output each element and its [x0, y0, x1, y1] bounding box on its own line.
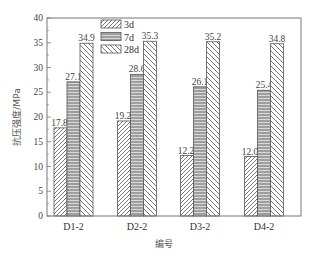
- x-tick-label: D3-2: [190, 221, 211, 232]
- x-tick-label: D1-2: [63, 221, 84, 232]
- y-tick-label: 15: [34, 137, 44, 147]
- legend-label: 28d: [124, 44, 139, 55]
- y-tick-label: 0: [38, 211, 43, 221]
- legend-label: 7d: [124, 32, 134, 43]
- value-label: 25.4: [256, 80, 273, 90]
- bar-group-D2-2: 19.228.635.3: [115, 31, 159, 216]
- value-label: 34.9: [78, 33, 95, 43]
- y-tick-label: 30: [34, 63, 44, 73]
- bar-7d: [258, 90, 271, 216]
- value-label: 17.8: [51, 118, 68, 128]
- bar-28d: [80, 43, 93, 216]
- bar-3d: [181, 156, 194, 216]
- legend-swatch-28d: [101, 45, 121, 53]
- x-tick-label: D2-2: [127, 221, 148, 232]
- x-tick-label: D4-2: [254, 221, 275, 232]
- bar-group-D3-2: 12.226.135.2: [178, 32, 222, 216]
- y-tick-label: 5: [38, 186, 43, 196]
- bar-chart: 17.827.134.919.228.635.312.226.135.212.0…: [0, 0, 317, 261]
- legend-label: 3d: [124, 19, 134, 30]
- bar-28d: [271, 44, 284, 216]
- value-label: 35.3: [142, 31, 159, 41]
- plot-area: 17.827.134.919.228.635.312.226.135.212.0…: [51, 31, 285, 216]
- value-label: 26.1: [192, 77, 209, 87]
- y-tick-label: 35: [34, 38, 44, 48]
- bar-7d: [67, 82, 80, 216]
- value-label: 12.0: [242, 147, 259, 157]
- bar-7d: [194, 87, 207, 216]
- y-tick-label: 10: [34, 162, 44, 172]
- bar-7d: [131, 74, 144, 216]
- bar-3d: [118, 121, 131, 216]
- legend-swatch-7d: [101, 33, 121, 41]
- value-label: 27.1: [65, 72, 82, 82]
- bar-group-D4-2: 12.025.434.8: [242, 34, 286, 216]
- y-tick-label: 20: [34, 112, 44, 122]
- bar-28d: [207, 42, 220, 216]
- value-label: 34.8: [269, 34, 286, 44]
- y-tick-label: 25: [34, 87, 44, 97]
- bar-group-D1-2: 17.827.134.9: [51, 33, 95, 216]
- value-label: 28.6: [129, 64, 146, 74]
- legend: 3d7d28d: [101, 19, 139, 55]
- y-axis-title: 抗压强度/MPa: [11, 88, 22, 145]
- x-axis-title: 编号: [155, 238, 173, 249]
- bar-3d: [54, 128, 67, 216]
- value-label: 35.2: [205, 32, 222, 42]
- y-tick-label: 40: [34, 13, 44, 23]
- bar-28d: [144, 41, 157, 216]
- value-label: 19.2: [115, 111, 132, 121]
- legend-swatch-3d: [101, 20, 121, 28]
- bar-3d: [245, 157, 258, 216]
- value-label: 12.2: [178, 146, 195, 156]
